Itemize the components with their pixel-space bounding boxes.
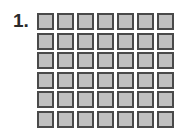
grid-cell (37, 52, 54, 69)
grid-cell (77, 13, 94, 30)
grid-cell (117, 33, 134, 50)
grid-cell (117, 111, 134, 128)
grid-cell (117, 52, 134, 69)
grid-cell (137, 52, 154, 69)
grid-cell (37, 33, 54, 50)
grid-cell (77, 52, 94, 69)
grid-cell (117, 91, 134, 108)
grid-cell (137, 111, 154, 128)
grid-cell (137, 33, 154, 50)
grid-cell (77, 91, 94, 108)
grid-cell (97, 91, 114, 108)
grid-cell (117, 13, 134, 30)
grid-cell (157, 72, 174, 89)
grid-cell (57, 13, 74, 30)
problem-number: 1. (13, 11, 29, 30)
grid-cell (97, 52, 114, 69)
grid-cell (137, 72, 154, 89)
grid-cell (157, 52, 174, 69)
grid-cell (37, 111, 54, 128)
grid-cell (77, 111, 94, 128)
grid-cell (97, 111, 114, 128)
grid-cell (157, 91, 174, 108)
grid-cell (77, 33, 94, 50)
grid-cell (157, 13, 174, 30)
grid-cell (57, 72, 74, 89)
grid-cell (37, 91, 54, 108)
grid-cell (137, 13, 154, 30)
grid-cell (97, 33, 114, 50)
grid-cell (57, 111, 74, 128)
grid-cell (157, 33, 174, 50)
grid-cell (77, 72, 94, 89)
grid-cell (137, 91, 154, 108)
grid-cell (97, 72, 114, 89)
grid-cell (57, 52, 74, 69)
grid-cell (57, 91, 74, 108)
grid-cell (37, 72, 54, 89)
grid-cell (97, 13, 114, 30)
grid-cell (117, 72, 134, 89)
grid-cell (57, 33, 74, 50)
grid-cell (37, 13, 54, 30)
square-grid (37, 13, 174, 128)
grid-cell (157, 111, 174, 128)
